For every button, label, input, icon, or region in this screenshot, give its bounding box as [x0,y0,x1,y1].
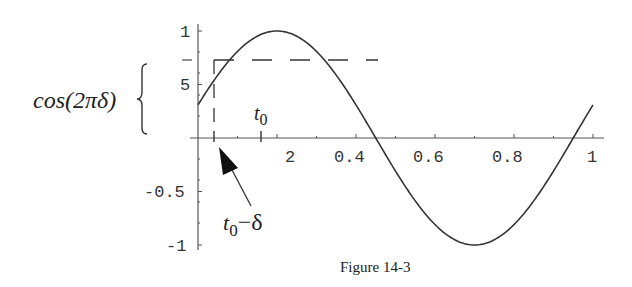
arrow-head [219,147,238,175]
x-tick-label: 0.6 [413,148,444,167]
y-tick-label: 5 [180,76,190,95]
figure-plot: 2 0.4 0.6 0.8 1 1 5 -0.5 -1 cos(2πδ) t0 … [0,0,632,287]
y-tick-label: -0.5 [144,183,185,202]
figure-caption: Figure 14-3 [340,259,410,275]
y-tick-label: 1 [180,23,190,42]
cos-label: cos(2πδ) [33,87,116,113]
x-tick-label: 1 [587,148,597,167]
x-tick-label: 0.4 [334,148,365,167]
arrow-shaft [231,168,251,206]
y-tick-label: -1 [166,237,186,256]
t0-label: t0 [254,102,268,128]
x-tick-label: 0.8 [492,148,523,167]
t0-minus-delta-label: t0−δ [223,209,262,240]
curly-brace [137,64,147,134]
x-tick-label: 2 [285,148,295,167]
